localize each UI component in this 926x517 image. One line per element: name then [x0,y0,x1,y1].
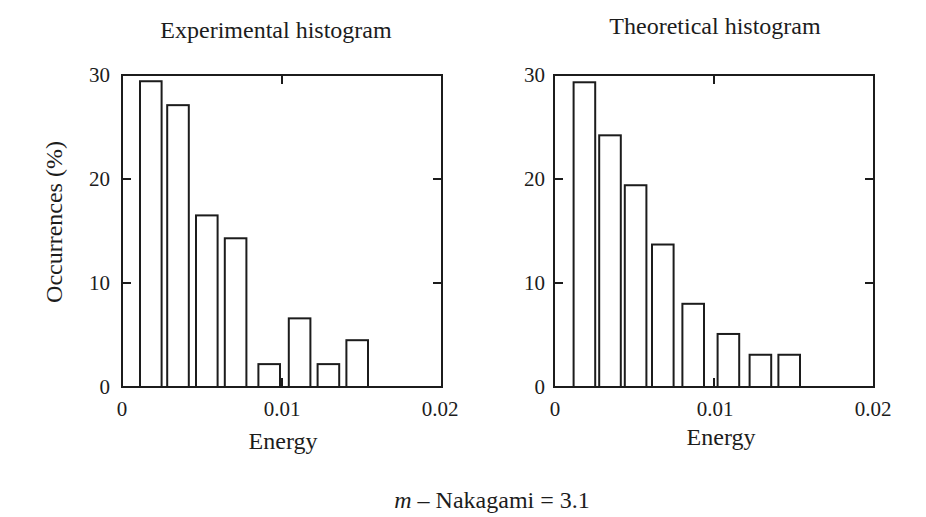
chart-title-theoretical: Theoretical histogram [609,13,820,39]
x-tick-label-0: 0 [117,399,128,420]
histogram-bar [196,215,218,387]
histogram-bar [258,364,280,387]
x-axis-label-theoretical: Energy [687,424,756,450]
histogram-bar [574,82,596,387]
y-tick-label-10: 10 [40,273,110,294]
x-tick-label-0: 0 [550,399,561,420]
histogram-bar [346,340,368,387]
figure: Experimental histogram Theoretical histo… [0,0,926,517]
x-axis-label-experimental: Energy [249,428,318,454]
figure-caption: m – Nakagami = 3.1 [394,487,590,513]
histogram-bar [718,334,740,387]
histogram-bar [289,318,311,387]
histogram-bar [625,185,647,387]
y-tick-label-0: 0 [40,377,110,398]
histogram-bar [318,364,340,387]
chart-title-experimental: Experimental histogram [160,17,391,43]
y-tick-label-0: 0 [475,377,545,398]
y-tick-label-10: 10 [475,273,545,294]
histogram-bar [225,238,247,387]
x-tick-label-002: 0.02 [855,399,892,420]
x-tick-label-001: 0.01 [697,399,734,420]
histogram-bar [652,245,674,387]
caption-parameter-symbol: m [394,487,411,513]
experimental-histogram-plot [117,70,447,392]
y-tick-label-30: 30 [40,65,110,86]
histogram-bar [167,105,189,387]
theoretical-histogram-plot [549,70,879,392]
histogram-bar [140,81,162,387]
x-tick-label-002: 0.02 [422,399,459,420]
histogram-bar [750,355,772,387]
caption-text: – Nakagami = 3.1 [412,487,590,513]
y-tick-label-20: 20 [40,169,110,190]
histogram-bar [778,355,800,387]
y-tick-label-30: 30 [475,65,545,86]
histogram-bar [599,135,621,387]
histogram-bar [682,304,704,387]
x-tick-label-001: 0.01 [264,399,301,420]
y-tick-label-20: 20 [475,169,545,190]
